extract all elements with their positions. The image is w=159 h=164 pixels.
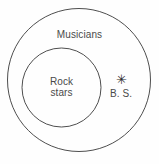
nested-set-diagram: Musicians Rockstars ✳ B. S. [0,0,159,164]
inner-set-label: Rockstars [22,76,101,98]
asterisk-marker-icon: ✳ [96,73,146,86]
inner-set-label-line2: stars [50,87,72,98]
outer-set-label: Musicians [0,29,159,40]
point-label-bs: B. S. [96,88,146,99]
inner-set-label-line1: Rock [50,76,73,87]
